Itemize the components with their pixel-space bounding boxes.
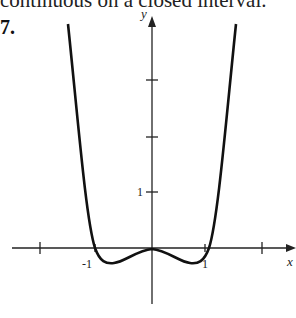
y-tick-label-1: 1 xyxy=(137,185,143,199)
x-axis-label: x xyxy=(286,254,293,269)
y-axis xyxy=(146,16,158,304)
function-graph: y x -1 1 1 xyxy=(0,0,296,318)
x-axis-arrow-icon xyxy=(286,244,296,252)
y-axis-arrow-icon xyxy=(148,16,156,27)
x-tick-label-neg1: -1 xyxy=(82,257,92,271)
x-tick-label-1: 1 xyxy=(202,257,208,271)
y-axis-label: y xyxy=(139,6,147,21)
